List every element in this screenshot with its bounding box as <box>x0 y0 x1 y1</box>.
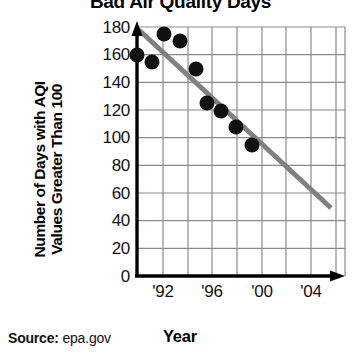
x-tick-label: '92 <box>140 283 186 300</box>
x-tick-label: '04 <box>288 283 334 300</box>
source-note: Source: epa.gov <box>8 330 111 346</box>
x-axis-title: Year <box>120 327 240 346</box>
x-tick-label: '96 <box>189 283 235 300</box>
x-axis-tick-labels: '92 '96 '00 '04 <box>0 0 361 359</box>
x-tick-label: '00 <box>239 283 285 300</box>
source-value: epa.gov <box>62 330 110 346</box>
source-label: Source: <box>8 330 59 346</box>
chart-figure: Bad Air Quality Days Number of Days with… <box>0 0 361 359</box>
